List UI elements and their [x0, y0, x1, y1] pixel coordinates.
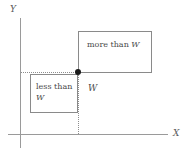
center-label-w: W: [88, 84, 97, 93]
dotted-vertical-down: [78, 72, 79, 134]
threshold-point-marker: [75, 69, 81, 75]
region-label-less-than-w-prefix: less than: [36, 82, 72, 91]
dotted-horizontal-left: [21, 72, 78, 73]
region-label-more-than-w: more than W: [87, 39, 140, 50]
region-label-more-than-w-prefix: more than: [87, 40, 131, 49]
region-label-less-than-w-variable: W: [36, 93, 44, 102]
region-label-more-than-w-variable: W: [131, 40, 139, 49]
region-box-less-than-w: less thanW: [30, 74, 78, 113]
region-label-less-than-w: less thanW: [36, 81, 74, 103]
x-axis-line: [8, 134, 168, 135]
diagram-canvas: Y X more than W less thanW W: [0, 0, 190, 155]
x-axis-label: X: [173, 129, 179, 138]
region-box-more-than-w: more than W: [78, 31, 152, 73]
y-axis-line: [20, 18, 21, 148]
y-axis-label: Y: [10, 5, 16, 14]
